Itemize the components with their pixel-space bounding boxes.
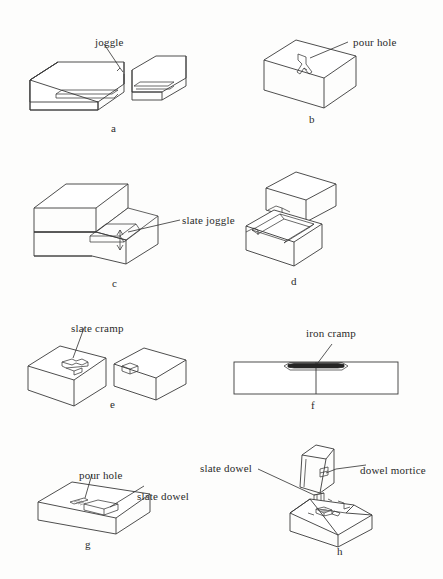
figure-d-drawing	[238, 172, 363, 277]
figure-f-caption: f	[311, 399, 315, 411]
slate-dowel-label-h: slate dowel	[200, 462, 252, 474]
figure-d-caption: d	[291, 275, 297, 287]
joggle-label: joggle	[95, 36, 124, 48]
figure-b-caption: b	[309, 113, 315, 125]
figure-e-caption: e	[110, 398, 115, 410]
dowel-mortice-label: dowel mortice	[360, 464, 426, 476]
iron-cramp-label: iron cramp	[306, 327, 356, 339]
slate-cramp-label: slate cramp	[71, 322, 124, 334]
figure-h-caption: h	[337, 545, 343, 557]
pour-hole-label-g: pour hole	[79, 469, 123, 481]
figure-b-drawing	[260, 38, 370, 118]
figure-e-drawing	[26, 340, 191, 415]
pour-hole-label-b: pour hole	[353, 36, 397, 48]
figure-f-drawing	[232, 354, 400, 402]
slate-joggle-label: slate joggle	[182, 214, 235, 226]
illustration-plate: joggle a pour hole b	[0, 0, 443, 579]
figure-a-caption: a	[111, 122, 116, 134]
figure-g-caption: g	[85, 538, 91, 550]
figure-c-caption: c	[112, 277, 117, 289]
figure-c-drawing	[28, 178, 188, 273]
slate-dowel-label-g: slate dowel	[137, 490, 189, 502]
figure-h-drawing	[276, 443, 396, 553]
figure-a-drawing	[28, 50, 188, 120]
